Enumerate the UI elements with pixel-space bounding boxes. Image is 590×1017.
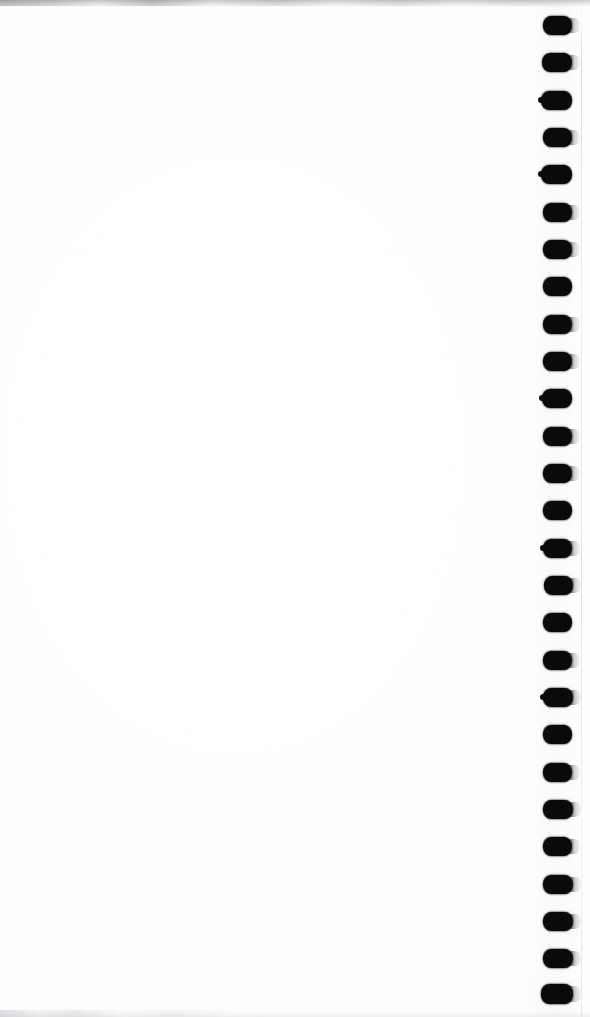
page-content-area bbox=[0, 0, 524, 1017]
binder-hole bbox=[543, 651, 572, 670]
scanned-page bbox=[0, 0, 590, 1017]
binder-hole bbox=[543, 800, 573, 819]
binder-hole bbox=[543, 427, 572, 446]
binder-hole bbox=[541, 91, 572, 110]
binder-hole bbox=[541, 165, 572, 184]
binder-hole bbox=[543, 464, 572, 483]
binder-hole bbox=[543, 912, 573, 931]
binder-hole bbox=[542, 53, 572, 72]
binder-hole bbox=[541, 984, 573, 1004]
binder-hole bbox=[543, 352, 572, 371]
binder-hole bbox=[543, 725, 572, 744]
binder-hole bbox=[543, 949, 573, 968]
binder-hole bbox=[542, 389, 572, 408]
binder-hole bbox=[543, 277, 572, 296]
binder-hole bbox=[543, 315, 572, 334]
binder-hole bbox=[543, 837, 572, 856]
binder-hole bbox=[543, 501, 572, 520]
binder-hole bbox=[543, 539, 572, 558]
binder-hole bbox=[543, 613, 572, 632]
binder-hole bbox=[543, 16, 572, 35]
binder-hole bbox=[543, 240, 572, 259]
binder-hole bbox=[543, 128, 572, 147]
binder-hole bbox=[543, 688, 573, 707]
binder-hole bbox=[543, 875, 573, 894]
binder-hole bbox=[543, 763, 572, 782]
binder-hole bbox=[544, 576, 573, 595]
binder-hole bbox=[543, 203, 572, 222]
